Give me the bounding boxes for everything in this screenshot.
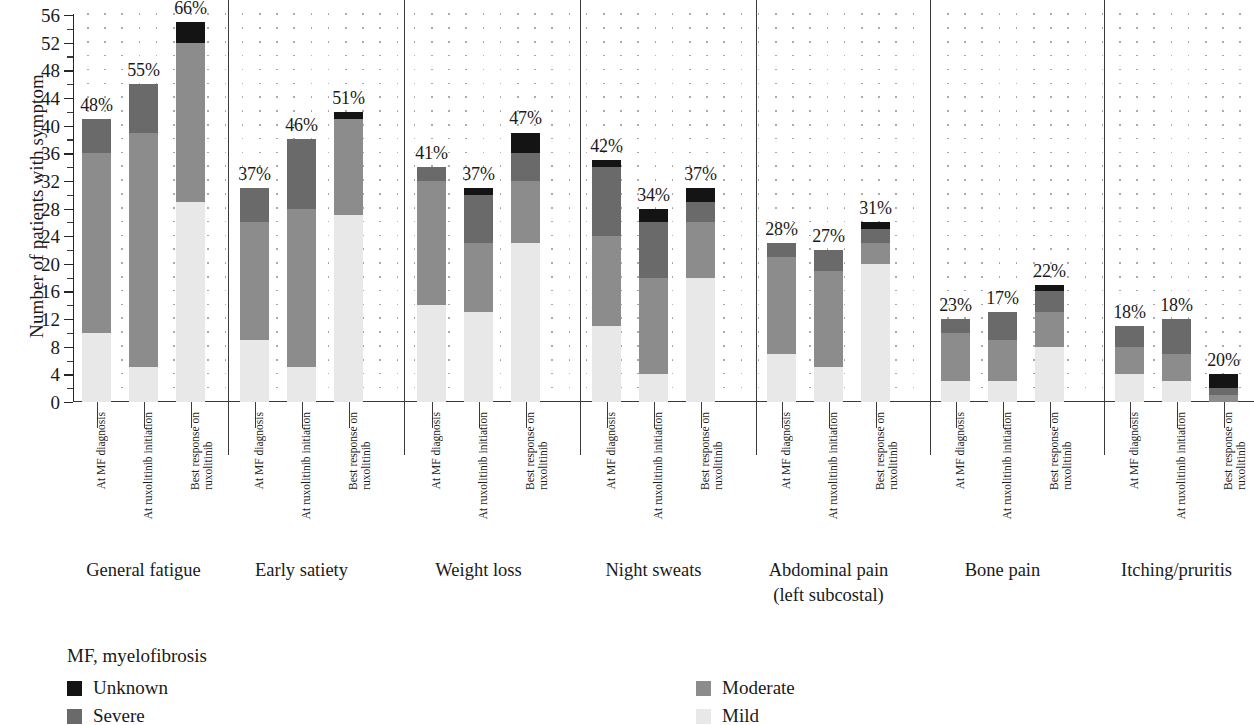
y-tick-major	[64, 181, 73, 182]
bar-segment-mild	[176, 202, 205, 402]
bar-segment-unknown	[176, 22, 205, 43]
bar-segment-moderate	[287, 209, 316, 368]
y-tick-minor	[67, 112, 73, 113]
y-tick-minor	[67, 29, 73, 30]
stacked-bar[interactable]	[767, 243, 796, 402]
stacked-bar[interactable]	[861, 222, 890, 402]
bar-percent-label: 46%	[285, 115, 317, 136]
y-tick-minor	[67, 361, 73, 362]
bar-segment-moderate	[1162, 354, 1191, 382]
legend-item[interactable]: Mild	[696, 702, 795, 725]
bar-segment-severe	[287, 139, 316, 208]
bar-percent-label: 18%	[1160, 295, 1192, 316]
bar-segment-mild	[464, 312, 493, 402]
stacked-bar[interactable]	[287, 139, 316, 402]
legend-swatch-unknown	[67, 681, 82, 696]
y-tick-minor	[67, 56, 73, 57]
stacked-bar[interactable]	[176, 22, 205, 402]
stacked-bar[interactable]	[240, 188, 269, 402]
bar-segment-severe	[1035, 291, 1064, 312]
stacked-bar[interactable]	[82, 119, 111, 402]
bar-segment-moderate	[1035, 312, 1064, 347]
bar-segment-severe	[767, 243, 796, 257]
y-tick-major	[64, 319, 73, 320]
category-label: Itching/pruritis	[1067, 558, 1254, 583]
legend-column-left: UnknownSevere	[67, 674, 168, 725]
bar-percent-label: 41%	[415, 143, 447, 164]
legend-swatch-moderate	[696, 681, 711, 696]
stacked-bar[interactable]	[592, 160, 621, 402]
y-tick-label: 4	[51, 364, 61, 386]
bar-percent-label: 27%	[812, 226, 844, 247]
y-tick-major	[64, 126, 73, 127]
bar-percent-label: 17%	[986, 288, 1018, 309]
bar-percent-label: 37%	[462, 164, 494, 185]
bar-segment-mild	[686, 278, 715, 402]
y-tick-major	[64, 43, 73, 44]
y-tick-label: 0	[51, 392, 61, 414]
legend-item[interactable]: Severe	[67, 702, 168, 725]
bar-segment-severe	[129, 84, 158, 132]
x-tick-label: Best response on ruxolitinib	[1222, 412, 1254, 490]
bar-segment-unknown	[511, 133, 540, 154]
bar-segment-moderate	[1115, 347, 1144, 375]
y-tick-major	[64, 70, 73, 71]
bar-segment-mild	[592, 326, 621, 402]
y-tick-minor	[67, 250, 73, 251]
bar-segment-severe	[592, 167, 621, 236]
y-tick-minor	[67, 278, 73, 279]
legend-swatch-mild	[696, 709, 711, 724]
y-tick-minor	[67, 333, 73, 334]
stacked-bar-chart-figure: Number of patients with symptom 04812162…	[0, 0, 1254, 725]
stacked-bar[interactable]	[334, 112, 363, 402]
stacked-bar[interactable]	[1115, 326, 1144, 402]
bar-segment-severe	[464, 195, 493, 243]
bar-segment-moderate	[82, 153, 111, 333]
stacked-bar[interactable]	[1035, 285, 1064, 402]
bar-percent-label: 55%	[127, 60, 159, 81]
bar-segment-unknown	[639, 209, 668, 223]
bar-segment-moderate	[176, 43, 205, 202]
bar-segment-moderate	[417, 181, 446, 305]
stacked-bar[interactable]	[1162, 319, 1191, 402]
y-tick-label: 8	[51, 337, 61, 359]
bar-segment-unknown	[464, 188, 493, 195]
bar-percent-label: 66%	[174, 0, 206, 19]
y-tick-minor	[67, 305, 73, 306]
y-tick-minor	[67, 195, 73, 196]
bar-segment-moderate	[861, 243, 890, 264]
stacked-bar[interactable]	[988, 312, 1017, 402]
stacked-bar[interactable]	[511, 133, 540, 402]
group-separator	[228, 0, 229, 455]
stacked-bar[interactable]	[814, 250, 843, 402]
legend-swatch-severe	[67, 709, 82, 724]
bar-segment-moderate	[988, 340, 1017, 381]
y-tick-label: 40	[41, 116, 60, 138]
bar-percent-label: 48%	[80, 95, 112, 116]
group-separator	[580, 0, 581, 455]
stacked-bar[interactable]	[941, 319, 970, 402]
bar-segment-unknown	[861, 222, 890, 229]
bar-segment-mild	[1035, 347, 1064, 402]
bar-segment-mild	[861, 264, 890, 402]
bar-segment-severe	[639, 222, 668, 277]
bar-segment-severe	[1209, 388, 1238, 395]
stacked-bar[interactable]	[417, 167, 446, 402]
bar-segment-moderate	[686, 222, 715, 277]
stacked-bar[interactable]	[464, 188, 493, 402]
bar-segment-severe	[814, 250, 843, 271]
stacked-bar[interactable]	[686, 188, 715, 402]
stacked-bar[interactable]	[129, 84, 158, 402]
y-tick-label: 56	[41, 5, 60, 27]
stacked-bar[interactable]	[1209, 374, 1238, 402]
group-separator	[1104, 0, 1105, 455]
bar-percent-label: 51%	[332, 88, 364, 109]
bar-segment-mild	[287, 367, 316, 402]
y-tick-major	[64, 374, 73, 375]
legend-item[interactable]: Unknown	[67, 674, 168, 702]
bar-segment-mild	[767, 354, 796, 402]
stacked-bar[interactable]	[639, 209, 668, 402]
legend-item[interactable]: Moderate	[696, 674, 795, 702]
bar-segment-mild	[417, 305, 446, 402]
bar-segment-mild	[511, 243, 540, 402]
